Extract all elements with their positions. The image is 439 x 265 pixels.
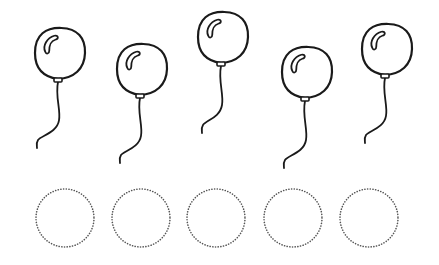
balloon-body — [362, 24, 412, 75]
dotted-tracing-circle — [112, 189, 170, 247]
balloon-icon — [117, 44, 167, 163]
balloon-string — [120, 98, 142, 163]
balloon-body — [282, 47, 332, 98]
balloon-knot — [381, 74, 389, 78]
balloon-body — [35, 28, 85, 79]
balloon-icon — [198, 12, 248, 133]
balloon-knot — [217, 62, 225, 66]
balloon-icon — [282, 47, 332, 168]
balloon-knot — [136, 94, 144, 98]
balloon-body — [117, 44, 167, 95]
balloon-string — [284, 101, 307, 168]
balloon-icon — [35, 28, 85, 148]
dotted-tracing-circle — [264, 189, 322, 247]
balloon-icon — [362, 24, 412, 143]
dotted-tracing-circle — [187, 189, 245, 247]
balloon-knot — [54, 78, 62, 82]
balloon-string — [37, 82, 60, 148]
balloon-string — [365, 78, 387, 143]
balloon-body — [198, 12, 248, 63]
balloon-tracing-worksheet — [0, 0, 439, 265]
balloon-string — [202, 66, 223, 133]
dotted-tracing-circle — [36, 189, 94, 247]
dotted-tracing-circle — [340, 189, 398, 247]
worksheet-canvas — [0, 0, 439, 265]
balloon-knot — [301, 97, 309, 101]
